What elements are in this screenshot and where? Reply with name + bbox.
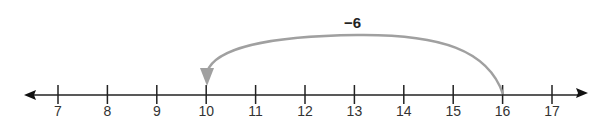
tick-label: 12: [290, 103, 320, 119]
number-line-diagram: 7891011121314151617 −6: [0, 0, 608, 132]
tick-label: 7: [43, 103, 73, 119]
tick-label: 17: [537, 103, 567, 119]
right-arrowhead-icon: [576, 88, 588, 98]
tick-label: 16: [488, 103, 518, 119]
tick-label: 8: [92, 103, 122, 119]
jump-arrowhead-icon: [200, 68, 214, 86]
tick-label: 9: [142, 103, 172, 119]
tick-label: 15: [438, 103, 468, 119]
jump-label: −6: [344, 14, 361, 31]
tick-label: 10: [191, 103, 221, 119]
tick-label: 13: [339, 103, 369, 119]
tick-label: 14: [389, 103, 419, 119]
tick-label: 11: [241, 103, 271, 119]
